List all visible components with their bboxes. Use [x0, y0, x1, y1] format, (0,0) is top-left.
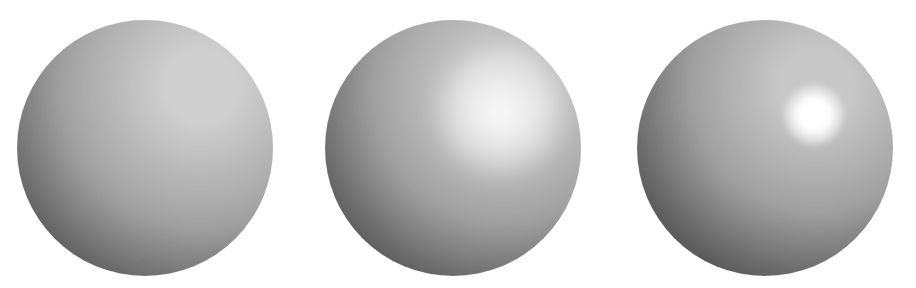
diffuse-shading-layer [637, 20, 893, 276]
sphere-shading-figure [0, 0, 916, 288]
diffuse-shading-layer [17, 20, 273, 276]
sphere-tight-highlight [637, 20, 893, 276]
sphere-broad-highlight [325, 20, 581, 276]
sphere-diffuse [17, 20, 273, 276]
diffuse-shading-layer [325, 20, 581, 276]
